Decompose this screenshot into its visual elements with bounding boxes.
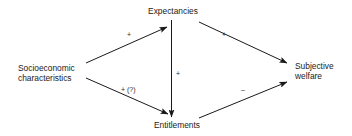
sign-socio-to-expectancies: +	[127, 31, 131, 39]
node-subjective-welfare: Subjective welfare	[295, 62, 334, 81]
node-expectancies: Expectancies	[145, 7, 201, 17]
arrow-socio-to-entitlements	[86, 78, 168, 114]
sign-entitlements-to-subjective-welfare: –	[241, 86, 245, 94]
sign-expectancies-to-subjective-welfare: +	[222, 31, 226, 39]
node-subjective-line-2: welfare	[295, 72, 334, 82]
arrow-expectancies-to-subjective-welfare	[199, 22, 287, 63]
node-entitlements-label: Entitlements	[148, 121, 206, 131]
path-diagram: Expectancies Socioeconomic characteristi…	[0, 0, 352, 136]
node-entitlements: Entitlements	[148, 121, 206, 131]
sign-socio-to-entitlements: + (?)	[121, 86, 136, 94]
node-expectancies-label: Expectancies	[145, 7, 201, 17]
node-socioeconomic-characteristics: Socioeconomic characteristics	[18, 64, 75, 83]
sign-expectancies-to-entitlements: +	[176, 70, 180, 78]
node-socio-line-2: characteristics	[18, 74, 75, 84]
